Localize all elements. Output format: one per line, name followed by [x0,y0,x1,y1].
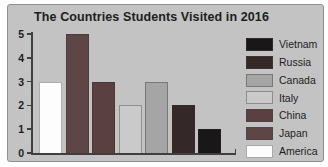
legend-label-japan: Japan [279,128,308,139]
legend: VietnamRussiaCanadaItalyChinaJapanAmeric… [246,38,322,158]
y-tick-label-1: 1 [7,124,24,135]
y-tick-mark-5 [27,33,31,35]
x-axis-end-tick [235,149,237,154]
legend-swatch-vietnam [246,38,273,51]
legend-label-vietnam: Vietnam [279,39,317,50]
legend-item-japan: Japan [246,127,322,140]
legend-label-china: China [279,110,306,121]
legend-swatch-russia [246,56,273,69]
chart-title: The Countries Students Visited in 2016 [22,10,281,24]
legend-label-america: America [279,146,318,157]
legend-label-canada: Canada [279,75,316,86]
plot-area: 012345 [31,34,235,153]
y-tick-mark-4 [27,57,31,59]
bar-chart-figure: The Countries Students Visited in 2016 0… [0,0,328,167]
chart-panel: The Countries Students Visited in 2016 0… [7,4,324,162]
y-tick-label-3: 3 [7,76,24,87]
x-axis-line [31,153,236,155]
legend-item-vietnam: Vietnam [246,38,322,51]
bar-russia [172,105,195,153]
y-tick-label-0: 0 [7,148,24,159]
legend-item-italy: Italy [246,91,322,104]
bar-italy [119,105,142,153]
y-tick-label-2: 2 [7,100,24,111]
bar-america [39,82,62,153]
bar-canada [145,82,168,153]
legend-label-italy: Italy [279,93,298,104]
y-tick-mark-2 [27,105,31,107]
y-tick-mark-0 [27,152,31,154]
legend-swatch-canada [246,74,273,87]
legend-label-russia: Russia [279,57,311,68]
legend-swatch-america [246,145,273,158]
y-axis-line [31,32,33,153]
bar-vietnam [198,129,221,153]
legend-item-canada: Canada [246,74,322,87]
y-tick-label-4: 4 [7,53,24,64]
legend-swatch-japan [246,127,273,140]
legend-swatch-china [246,109,273,122]
legend-swatch-italy [246,91,273,104]
legend-item-america: America [246,145,322,158]
legend-item-russia: Russia [246,56,322,69]
legend-item-china: China [246,109,322,122]
bar-japan [66,34,89,153]
y-tick-mark-3 [27,81,31,83]
bar-china [92,82,115,153]
y-tick-label-5: 5 [7,29,24,40]
y-tick-mark-1 [27,128,31,130]
